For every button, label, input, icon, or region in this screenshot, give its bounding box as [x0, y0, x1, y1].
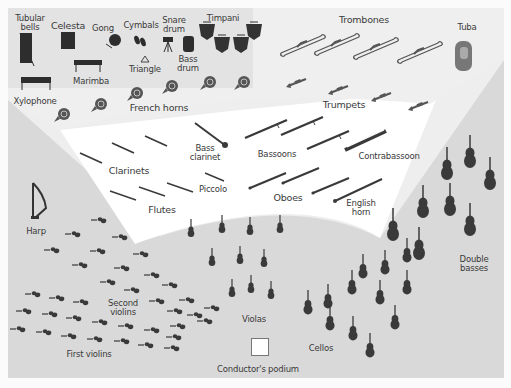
label-cellos: Cellos	[309, 344, 333, 353]
conductors-podium	[251, 338, 269, 356]
label-conductors-podium: Conductor's podium	[217, 365, 299, 374]
label-second-violins: Second violins	[108, 299, 138, 317]
label-bassoons: Bassoons	[258, 150, 297, 159]
label-oboes: Oboes	[273, 193, 302, 203]
celesta-icon	[61, 32, 75, 49]
label-cymbals: Cymbals	[123, 21, 158, 30]
label-bass-drum: Bass drum	[177, 55, 199, 73]
tubular-bells-icon	[20, 33, 34, 66]
label-english-horn: English horn	[346, 199, 375, 217]
gong-icon	[109, 34, 121, 46]
label-marimba: Marimba	[73, 77, 109, 86]
label-contrabassoon: Contrabassoon	[358, 152, 419, 161]
label-celesta: Celesta	[51, 21, 85, 31]
label-harp: Harp	[26, 227, 46, 236]
label-snare-drum: Snare drum	[162, 16, 186, 34]
tuba-icon	[455, 41, 472, 71]
label-gong: Gong	[92, 24, 114, 33]
label-flutes: Flutes	[148, 205, 175, 215]
label-triangle: Triangle	[129, 65, 161, 74]
label-trumpets: Trumpets	[323, 100, 366, 110]
bass-drum-icon	[183, 36, 194, 52]
label-piccolo: Piccolo	[199, 185, 227, 194]
label-tubular-bells: Tubular bells	[15, 14, 45, 32]
label-xylophone: Xylophone	[13, 97, 56, 106]
label-first-violins: First violins	[66, 350, 111, 359]
label-tuba: Tuba	[457, 23, 476, 32]
label-bass-clarinet: Bass clarinet	[190, 144, 220, 162]
label-violas: Violas	[242, 315, 266, 324]
stage-zones	[0, 0, 511, 388]
label-french-horns: French horns	[130, 103, 189, 113]
label-clarinets: Clarinets	[109, 166, 149, 176]
orchestra-diagram: Tubular bells Celesta Gong Cymbals Snare…	[0, 0, 511, 388]
label-timpani: Timpani	[207, 14, 240, 23]
label-double-basses: Double basses	[460, 255, 489, 273]
label-trombones: Trombones	[339, 15, 389, 25]
